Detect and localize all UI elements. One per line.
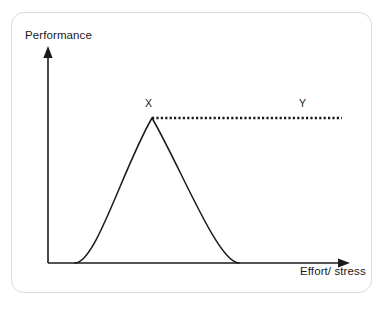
- performance-effort-chart: [0, 0, 385, 309]
- figure-root: Performance Effort/ stress X Y: [0, 0, 385, 309]
- plateau-point-label: Y: [299, 97, 306, 109]
- x-axis-label: Effort/ stress: [300, 265, 366, 277]
- peak-point-label: X: [145, 97, 152, 109]
- y-axis-arrowhead-icon: [43, 46, 52, 58]
- performance-curve: [75, 118, 239, 263]
- y-axis-label: Performance: [25, 29, 92, 41]
